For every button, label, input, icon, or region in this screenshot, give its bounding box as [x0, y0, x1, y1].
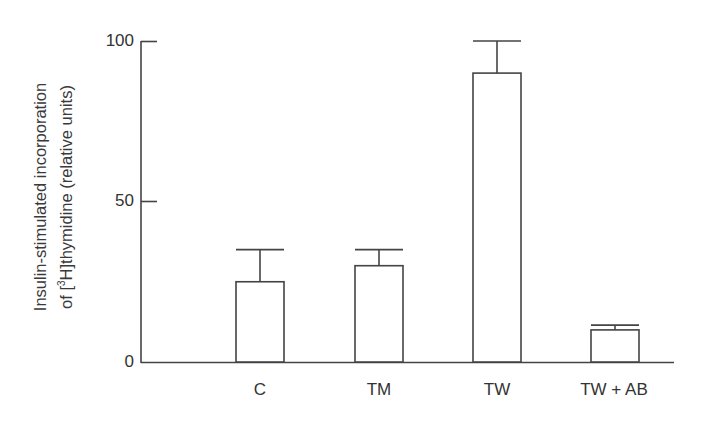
x-label-c: C [210, 380, 310, 400]
bar-c [236, 282, 284, 362]
x-label-tw: TW [447, 380, 547, 400]
y-tick-label-50: 50 [84, 191, 134, 211]
x-label-tw-ab: TW + AB [564, 380, 664, 400]
y-axis-label-line2: of [3H]thymidine (relative units) [51, 32, 77, 362]
y-tick-label-0: 0 [84, 352, 134, 372]
x-label-tm: TM [329, 380, 429, 400]
bar-tw-ab [591, 330, 639, 362]
bar-tw [473, 73, 521, 362]
y-tick-label-100: 100 [84, 31, 134, 51]
bar-tm [355, 266, 403, 362]
y-axis-label-line1: Insulin-stimulated incorporation [30, 32, 51, 362]
y-axis-label: Insulin-stimulated incorporation of [3H]… [30, 32, 77, 362]
